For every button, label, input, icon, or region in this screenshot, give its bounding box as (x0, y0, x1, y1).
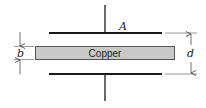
slab-thickness-label: b (17, 47, 24, 60)
plate-separation-label: d (187, 47, 194, 60)
capacitor-diagram: A Copper b d (0, 0, 206, 108)
slab-label: Copper (89, 48, 122, 59)
slab-thickness-dimension: b (14, 32, 34, 74)
plate-area-label: A (118, 20, 127, 33)
